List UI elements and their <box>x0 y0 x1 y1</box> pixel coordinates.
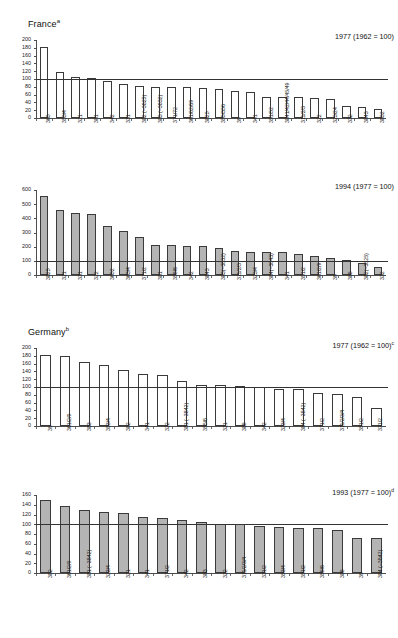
x-axis-tick <box>163 276 164 278</box>
x-axis-category-label: 385 <box>348 271 353 280</box>
x-axis-tick <box>275 276 276 278</box>
x-axis-tick <box>55 574 56 576</box>
bar <box>40 355 51 426</box>
y-axis-tick-label: 100 <box>13 76 31 81</box>
x-axis-tick <box>75 574 76 576</box>
x-axis-category-label: 361/2/9 <box>67 561 72 578</box>
bar <box>196 522 207 573</box>
y-axis-tick-label: 20 <box>13 108 31 113</box>
y-axis-tick-label: 120 <box>13 69 31 74</box>
y-axis-tick-label: 140 <box>13 502 31 507</box>
x-axis-category-label: 361/62/69 <box>189 100 194 123</box>
y-axis-tick-label: 100 <box>13 522 31 527</box>
x-axis-category-label: 361/2/9 <box>317 263 322 280</box>
y-axis-tick-label: 20 <box>13 416 31 421</box>
x-axis-category-label: 321 <box>126 569 131 578</box>
x-axis-tick <box>308 574 309 576</box>
x-axis-tick <box>227 276 228 278</box>
x-axis-tick <box>250 574 251 576</box>
x-axis-category-label: 322 <box>94 271 99 280</box>
reference-line-100 <box>36 79 388 80</box>
x-axis-tick <box>147 276 148 278</box>
x-axis-tick <box>227 119 228 121</box>
x-axis-tick <box>328 574 329 576</box>
x-axis-tick <box>367 427 368 429</box>
x-axis-category-label: 351/2 <box>359 418 364 431</box>
x-axis-category-label: 311/2/3 <box>237 263 242 280</box>
x-axis-tick <box>94 574 95 576</box>
y-axis-tick-label: 140 <box>13 61 31 66</box>
y-axis-tick-label: 60 <box>13 92 31 97</box>
x-axis-category-label: 351/2 <box>301 267 306 280</box>
section-heading-france-footnote: a <box>57 18 60 24</box>
x-axis-tick <box>153 427 154 429</box>
chart-panel-germany-1977: 1977 (1962 = 100)c 020406080100120140160… <box>0 340 398 470</box>
section-heading-france: Francea <box>28 18 60 29</box>
x-axis-tick <box>131 276 132 278</box>
bar <box>71 213 80 275</box>
x-axis-category-label: 331/2 <box>378 418 383 431</box>
x-axis-category-label: 371/72 <box>173 107 178 123</box>
x-axis-category-label: 355/356 <box>221 104 226 123</box>
x-axis-category-label: 342 <box>262 422 267 431</box>
bar <box>138 517 149 573</box>
bar <box>332 530 343 573</box>
y-axis-tick-label: 60 <box>13 400 31 405</box>
bar <box>118 513 129 573</box>
x-axis-category-label: 311/2/3/4 <box>242 557 247 578</box>
x-axis-category-label: 332 <box>380 271 385 280</box>
x-axis-tick <box>52 119 53 121</box>
x-axis-tick <box>291 276 292 278</box>
x-axis-category-label: 371/2 <box>320 418 325 431</box>
x-axis-category-label: 341 <box>253 114 258 123</box>
plot-area-germany-1993: 020406080100120140160382361/2/9381 (−384… <box>36 495 386 573</box>
bar <box>177 520 188 573</box>
x-axis-category-label: 331/2 <box>262 565 267 578</box>
x-axis-tick <box>84 276 85 278</box>
chart-panel-france-1977: 1977 (1962 = 100) 0204060801001201401601… <box>0 32 398 162</box>
x-axis-tick <box>195 276 196 278</box>
x-axis-category-label: 353/4 <box>106 418 111 431</box>
x-axis-tick <box>84 119 85 121</box>
x-axis-tick <box>131 119 132 121</box>
x-axis-tick <box>211 119 212 121</box>
bar <box>119 84 128 118</box>
x-axis-tick <box>289 427 290 429</box>
x-axis-tick <box>259 276 260 278</box>
bar <box>87 78 96 118</box>
x-axis-tick <box>291 119 292 121</box>
y-axis-tick-label: 600 <box>13 187 31 192</box>
x-axis-category-label: 322 <box>223 569 228 578</box>
x-axis-category-label: 39 <box>333 274 338 280</box>
x-axis-tick <box>211 574 212 576</box>
x-axis-tick <box>36 574 37 576</box>
x-axis-tick <box>100 276 101 278</box>
section-heading-germany: Germanyb <box>28 326 69 337</box>
bar <box>103 81 112 118</box>
x-axis-category-label: 383 (−3832) <box>158 95 163 123</box>
x-axis-category-label: 323/24 <box>333 107 338 123</box>
y-axis-tick-label: 160 <box>13 53 31 58</box>
bar <box>215 524 226 573</box>
bar <box>71 77 80 118</box>
x-axis-tick <box>306 119 307 121</box>
x-axis-category-label: 3652 <box>110 268 115 280</box>
section-heading-germany-label: Germany <box>28 327 66 337</box>
x-axis-tick <box>163 119 164 121</box>
x-axis-category-label: 351/52 <box>269 107 274 123</box>
x-axis-category-label: 382 <box>48 569 53 578</box>
x-axis-category-label: 3843 <box>364 111 369 123</box>
x-axis-category-label: 322 <box>317 114 322 123</box>
x-axis-category-label: 384(−3843) <box>269 253 274 280</box>
x-axis-category-label: 331 <box>78 271 83 280</box>
x-axis-tick <box>36 427 37 429</box>
bar <box>352 538 363 573</box>
x-axis-category-label: 342 <box>189 271 194 280</box>
x-axis-category-label: 323/4 <box>253 267 258 280</box>
x-axis-tick <box>153 574 154 576</box>
y-axis-tick-label: 80 <box>13 392 31 397</box>
y-axis-tick-label: 180 <box>13 353 31 358</box>
y-axis-tick-label: 0 <box>13 423 31 428</box>
x-axis-tick <box>55 427 56 429</box>
y-axis-tick-label: 120 <box>13 377 31 382</box>
